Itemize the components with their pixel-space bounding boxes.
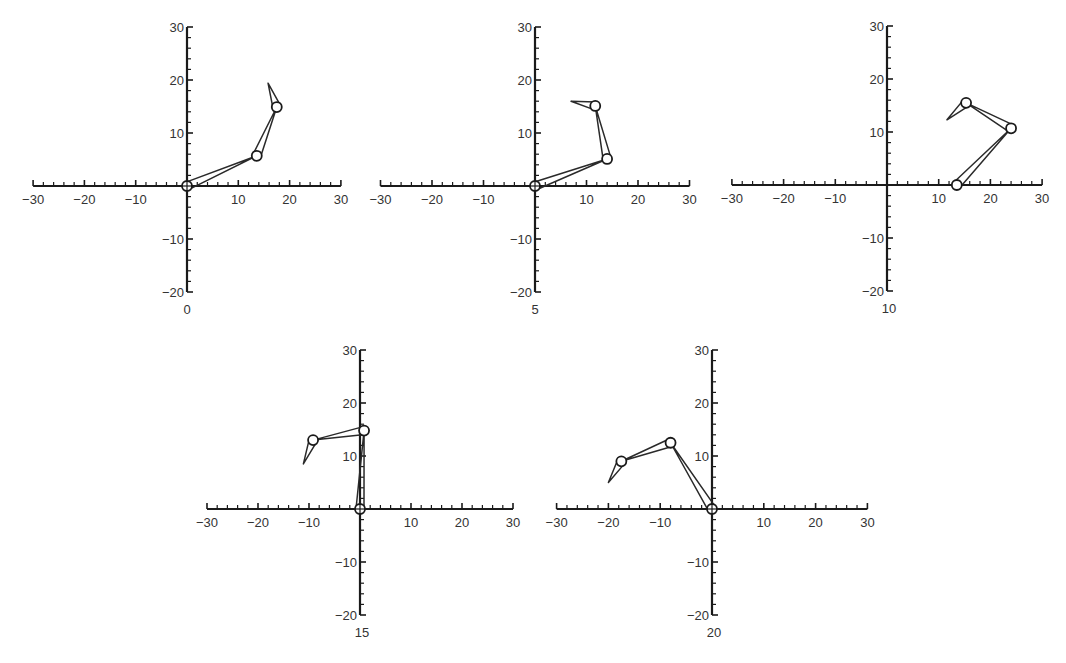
- y-tick-label: −10: [335, 555, 357, 570]
- x-tick-label: 30: [682, 192, 696, 207]
- x-tick-label: −10: [125, 192, 147, 207]
- x-tick-label: −30: [546, 515, 568, 530]
- y-tick-label: 20: [870, 72, 884, 87]
- x-tick-label: 20: [808, 515, 822, 530]
- x-tick-label: 30: [506, 515, 520, 530]
- x-tick-label: 30: [860, 515, 874, 530]
- y-tick-label: 30: [695, 343, 709, 358]
- x-tick-label: −20: [597, 515, 619, 530]
- x-tick-label: −20: [73, 192, 95, 207]
- x-tick-label: −30: [369, 192, 391, 207]
- y-tick-label: 30: [343, 343, 357, 358]
- joint-icon: [961, 98, 971, 108]
- joint-icon: [602, 154, 612, 164]
- frame-number-label: 0: [183, 302, 190, 317]
- y-tick-label: −20: [862, 284, 884, 299]
- linkage: [182, 83, 282, 191]
- panel-frame-5: −30−20−10102030302010−10−205: [369, 20, 696, 317]
- x-tick-label: −10: [472, 192, 494, 207]
- y-tick-label: 10: [343, 449, 357, 464]
- x-tick-label: −30: [721, 191, 743, 206]
- x-tick-label: −20: [421, 192, 443, 207]
- y-tick-label: 20: [170, 73, 184, 88]
- panel-frame-15: −30−20−10102030302010−10−2015: [196, 343, 520, 640]
- panel-frame-20: −30−20−10102030302010−10−2020: [546, 343, 875, 640]
- panel-frame-0: −30−20−10102030302010−10−200: [22, 20, 348, 317]
- x-tick-label: −10: [298, 515, 320, 530]
- x-tick-label: −20: [773, 191, 795, 206]
- panel-frame-10: −30−20−10102030302010−10−2010: [721, 19, 1049, 316]
- y-tick-label: 20: [518, 73, 532, 88]
- x-tick-label: −10: [649, 515, 671, 530]
- link-segment: [313, 427, 365, 440]
- joint-icon: [252, 151, 262, 161]
- y-tick-label: −20: [510, 285, 532, 300]
- joint-icon: [590, 101, 600, 111]
- linkage: [947, 98, 1016, 190]
- frame-number-label: 15: [355, 625, 369, 640]
- link-segment: [621, 439, 672, 461]
- joint-icon: [308, 435, 318, 445]
- y-tick-label: 30: [518, 20, 532, 35]
- x-tick-label: 10: [931, 191, 945, 206]
- y-tick-label: 20: [695, 396, 709, 411]
- y-tick-label: 10: [695, 449, 709, 464]
- linkage: [530, 101, 612, 191]
- y-tick-label: 30: [870, 19, 884, 34]
- linkage-motion-figure: −30−20−10102030302010−10−200−30−20−10102…: [0, 0, 1066, 663]
- y-tick-label: −10: [862, 231, 884, 246]
- y-tick-label: 10: [870, 125, 884, 140]
- x-tick-label: −30: [22, 192, 44, 207]
- joint-icon: [666, 438, 676, 448]
- joint-icon: [1006, 123, 1016, 133]
- y-tick-label: −10: [687, 555, 709, 570]
- x-tick-label: 20: [282, 192, 296, 207]
- y-tick-label: 10: [518, 126, 532, 141]
- x-tick-label: 10: [404, 515, 418, 530]
- x-tick-label: 10: [757, 515, 771, 530]
- x-tick-label: −30: [196, 515, 218, 530]
- y-tick-label: 20: [343, 396, 357, 411]
- x-tick-label: −10: [824, 191, 846, 206]
- x-tick-label: −20: [247, 515, 269, 530]
- x-tick-label: 20: [983, 191, 997, 206]
- link-segment: [185, 156, 256, 190]
- y-tick-label: 30: [170, 20, 184, 35]
- joint-icon: [616, 456, 626, 466]
- joint-icon: [359, 426, 369, 436]
- x-tick-label: 10: [579, 192, 593, 207]
- y-tick-label: −10: [162, 232, 184, 247]
- y-tick-label: −20: [335, 608, 357, 623]
- link-segment: [595, 106, 611, 160]
- base-joint-icon: [952, 180, 962, 190]
- y-tick-label: 10: [170, 126, 184, 141]
- x-tick-label: 30: [1035, 191, 1049, 206]
- y-tick-label: −20: [687, 608, 709, 623]
- x-tick-label: 10: [231, 192, 245, 207]
- frame-number-label: 5: [531, 302, 538, 317]
- y-tick-label: −20: [162, 285, 184, 300]
- frame-number-label: 20: [707, 625, 721, 640]
- x-tick-label: 20: [455, 515, 469, 530]
- y-tick-label: −10: [510, 232, 532, 247]
- link-segment: [253, 107, 277, 157]
- link-segment: [954, 128, 1011, 187]
- x-tick-label: 30: [334, 192, 348, 207]
- joint-icon: [272, 102, 282, 112]
- frame-number-label: 10: [882, 301, 896, 316]
- x-tick-label: 20: [631, 192, 645, 207]
